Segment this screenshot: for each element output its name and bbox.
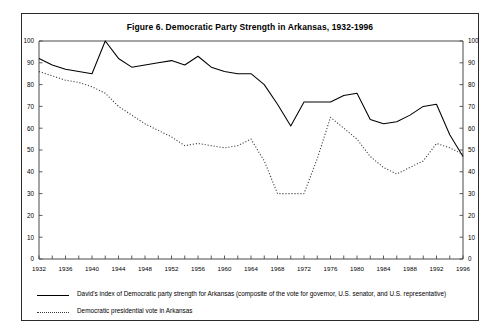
y-tick-label-left: 60: [27, 125, 35, 132]
y-tick-label-right: 40: [468, 168, 476, 175]
x-tick-label: 1960: [218, 265, 232, 272]
y-tick-label-right: 70: [468, 103, 476, 110]
y-tick-label-left: 30: [27, 190, 35, 197]
y-tick-label-left: 40: [27, 168, 35, 175]
series-group: [39, 41, 463, 194]
y-tick-label-left: 20: [27, 212, 35, 219]
y-tick-label-left: 10: [27, 234, 35, 241]
x-tick-label: 1936: [59, 265, 73, 272]
x-tick-label: 1932: [32, 265, 46, 272]
y-tick-label-right: 20: [468, 212, 476, 219]
legend-item-presidential-vote: Democratic presidential vote in Arkansas: [36, 303, 476, 320]
x-tick-label: 1952: [165, 265, 179, 272]
x-tick-label: 1992: [430, 265, 444, 272]
x-tick-label: 1988: [403, 265, 417, 272]
y-tick-label-right: 80: [468, 81, 476, 88]
x-tick-label: 1948: [138, 265, 152, 272]
data-series-presidential-vote: [39, 72, 463, 194]
y-tick-label-left: 50: [27, 146, 35, 153]
legend-swatch-dotted-icon: [36, 307, 70, 317]
y-tick-label-left: 70: [27, 103, 35, 110]
y-tick-label-left: 90: [27, 59, 35, 66]
y-tick-label-right: 100: [468, 37, 479, 44]
y-tick-label-right: 60: [468, 125, 476, 132]
y-tick-label-left: 80: [27, 81, 35, 88]
chart-legend: David's index of Democratic party streng…: [36, 286, 476, 320]
legend-swatch-solid-icon: [36, 290, 70, 300]
x-tick-label: 1972: [297, 265, 311, 272]
plot-area: 0010102020303040405050606070708080909010…: [22, 14, 480, 322]
x-tick-label: 1944: [112, 265, 126, 272]
legend-item-party-strength-index: David's index of Democratic party streng…: [36, 286, 476, 303]
figure-container: Figure 6. Democratic Party Strength in A…: [21, 13, 479, 321]
y-tick-label-right: 50: [468, 146, 476, 153]
y-tick-label-right: 10: [468, 234, 476, 241]
chart-svg: 0010102020303040405050606070708080909010…: [22, 14, 480, 322]
axes-group: 0010102020303040405050606070708080909010…: [23, 37, 479, 272]
x-tick-label: 1984: [377, 265, 391, 272]
x-tick-label: 1964: [244, 265, 258, 272]
y-tick-label-right: 30: [468, 190, 476, 197]
x-tick-label: 1940: [85, 265, 99, 272]
y-tick-label-right: 0: [468, 255, 472, 262]
x-tick-label: 1980: [350, 265, 364, 272]
y-tick-label-right: 90: [468, 59, 476, 66]
x-tick-label: 1968: [271, 265, 285, 272]
x-tick-label: 1976: [324, 265, 338, 272]
y-tick-label-left: 100: [23, 37, 34, 44]
x-tick-label: 1956: [191, 265, 205, 272]
legend-label-party-strength-index: David's index of Democratic party streng…: [77, 291, 446, 297]
legend-label-presidential-vote: Democratic presidential vote in Arkansas: [77, 308, 192, 314]
y-tick-label-left: 0: [30, 255, 34, 262]
x-tick-label: 1996: [456, 265, 470, 272]
